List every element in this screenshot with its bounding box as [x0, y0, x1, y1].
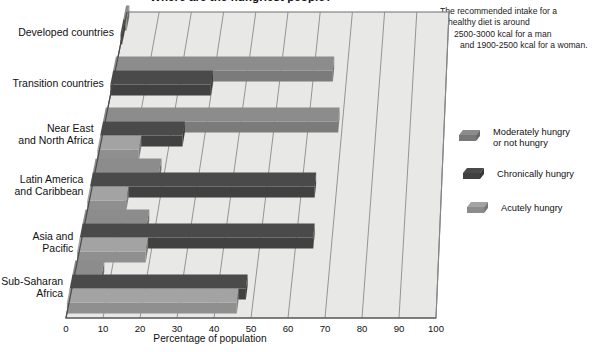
category-label-line-2: and North Africa [18, 134, 93, 146]
legend-swatch [459, 127, 485, 145]
legend-label-line-1: Moderately hungry [493, 127, 570, 138]
recommended-intake-note: The recommended intake for a healthy die… [440, 6, 606, 52]
bar-front-face [113, 71, 333, 82]
category-label-2: Transition countries [13, 77, 104, 89]
swatch-face [467, 207, 484, 213]
bar-endcap [102, 261, 105, 286]
legend-label: Acutely hungry [501, 203, 563, 214]
category-label-4: Latin Americaand Caribbean [15, 173, 84, 198]
category-label-line-1: Near East [18, 122, 93, 134]
bar-front-face [110, 84, 211, 95]
bar-endcap [211, 71, 213, 96]
bar-top-face [80, 224, 315, 238]
swatch-face [463, 173, 480, 179]
category-label-3: Near Eastand North Africa [18, 122, 93, 147]
bar-endcap [127, 6, 130, 31]
bar-front-face [90, 186, 315, 197]
bar-top-face [121, 20, 125, 34]
bar-endcap [122, 20, 125, 45]
bar-top-face [110, 71, 213, 85]
bar-top-face [123, 6, 129, 20]
gridline [436, 12, 449, 318]
bar-front-face [72, 275, 101, 286]
gridline [288, 12, 320, 318]
category-label-line-1: Asia and Pacific [0, 230, 73, 255]
category-label-line-2: and Caribbean [15, 185, 84, 197]
bar-endcap [126, 186, 129, 211]
bar-endcap [313, 224, 314, 249]
bar-top-face [70, 275, 248, 289]
bar-front-face [67, 302, 237, 313]
bar-front-face [87, 200, 126, 211]
category-label-line-1: Transition countries [13, 77, 104, 89]
legend-label-line-1: Chronically hungry [497, 169, 574, 180]
category-label-line-1: Sub-Saharan [1, 275, 63, 287]
bar-top-face [93, 159, 162, 173]
gridline [177, 12, 224, 318]
bar-front-face [77, 251, 146, 262]
bar-front-face [93, 173, 159, 184]
bar-front-face [103, 122, 338, 133]
bar-top-face [87, 186, 128, 200]
legend-label-line-1: Acutely hungry [501, 203, 563, 214]
bar-endcap [159, 159, 161, 184]
gridline [140, 12, 191, 318]
bar-top-face [100, 122, 185, 136]
category-label-5: Asia and Pacific [0, 230, 73, 255]
bar-top-face [72, 261, 104, 275]
swatch-face [459, 135, 476, 141]
page-title: Where are the hungriest people? [150, 0, 380, 3]
bar-front-face [97, 149, 138, 160]
plot-border [66, 12, 436, 318]
category-label-line-1: Developed countries [18, 26, 114, 38]
bar-top-face [67, 288, 239, 302]
category-label-6: Sub-SaharanAfrica [1, 275, 63, 300]
bar-front-face [70, 288, 246, 299]
bar-endcap [315, 173, 316, 198]
bar-endcap [139, 135, 142, 160]
legend-swatch [467, 199, 493, 217]
bar-front-face [83, 224, 147, 235]
bar-front-face [80, 237, 313, 248]
bar-front-face [121, 33, 123, 44]
bar-endcap [146, 237, 148, 262]
note-line-1: The recommended intake for a [440, 6, 606, 17]
plot-floor [66, 12, 449, 318]
gridline [362, 12, 385, 318]
legend-label: Moderately hungryor not hungry [493, 127, 570, 149]
x-tick-100: 100 [423, 323, 449, 334]
bar-endcap [237, 288, 239, 313]
category-label-line-2: Africa [1, 287, 63, 299]
note-line-3: 2500-3000 kcal for a man [440, 29, 606, 40]
category-label-1: Developed countries [18, 26, 114, 38]
bar-top-face [77, 237, 148, 251]
bar-endcap [338, 108, 339, 133]
note-line-2: healthy diet is around [440, 17, 606, 28]
gridline [66, 12, 127, 318]
bar-front-face [123, 20, 126, 31]
x-axis-title: Percentage of population [0, 333, 420, 344]
bar-endcap [246, 275, 248, 300]
note-line-4: and 1900-2500 kcal for a woman. [440, 40, 606, 51]
legend-label-line-2: or not hungry [493, 138, 570, 149]
chart-figure: Where are the hungriest people? The reco… [0, 0, 609, 352]
legend-swatch [463, 165, 489, 183]
gridline [325, 12, 352, 318]
bar-top-face [113, 57, 334, 71]
category-label-line-1: Latin America [15, 173, 84, 185]
gridline [251, 12, 288, 318]
gridline [103, 12, 159, 318]
bar-top-face [97, 135, 141, 149]
bar-endcap [333, 57, 334, 82]
bar-top-face [103, 108, 340, 122]
legend-label: Chronically hungry [497, 169, 574, 180]
bar-endcap [147, 210, 149, 235]
gridline [214, 12, 256, 318]
bar-top-face [90, 173, 316, 187]
bar-front-face [100, 135, 182, 146]
bar-endcap [183, 122, 185, 147]
bar-top-face [83, 210, 150, 224]
gridline [399, 12, 417, 318]
